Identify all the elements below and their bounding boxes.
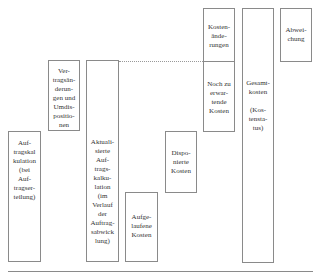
label-vertragsaenderungen: Ver- tragsän- derun- gen und Umdis- posi… [53,67,76,130]
label-aufgelaufene-kosten: Aufge- laufene Kosten [131,213,152,261]
box-gesamtkosten: Gesamt- kosten (Kos- tensta- tus) [242,8,274,263]
label-gesamtkosten: Gesamt- kosten (Kos- tensta- tus) [246,79,270,262]
label-aktualisierte-kalkulation: Aktuali- sierte Auf- trags- kalku- latio… [90,138,114,261]
box-disponierte-kosten: Dispo- nierte Kosten [165,131,197,193]
box-aufgelaufene-kosten: Aufge- laufene Kosten [125,192,158,262]
label-disponierte-kosten: Dispo- nierte Kosten [171,149,191,192]
label-abweichung: Abwei- chung [286,26,307,61]
box-vertragsaenderungen: Ver- tragsän- derun- gen und Umdis- posi… [48,60,80,131]
label-noch-zu-erwartende: Noch zu erwar- tende Kosten [203,80,235,116]
box-auftragskalkulation: Auf- tragskal kulation (bei Auf- tragser… [8,131,41,262]
divider-kosten-noch [203,61,235,62]
dotted-guide-line [119,61,203,62]
box-aktualisierte-kalkulation: Aktuali- sierte Auf- trags- kalku- latio… [86,60,119,262]
baseline [8,271,313,272]
label-auftragskalkulation: Auf- tragskal kulation (bei Auf- tragser… [13,139,36,261]
box-abweichung: Abwei- chung [280,8,312,62]
